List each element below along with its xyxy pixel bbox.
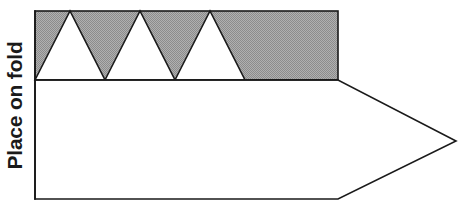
pattern-body-outline [35,80,456,199]
pattern-drawing [0,0,469,215]
pattern-diagram: Place on fold [0,0,469,215]
